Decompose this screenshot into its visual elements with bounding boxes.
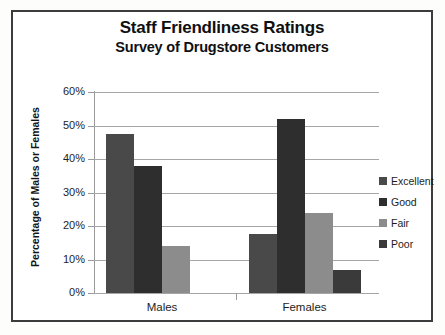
bar-group-females (249, 92, 361, 293)
y-tick-label-10pct: 10% (45, 253, 85, 265)
bar-males-fair[interactable] (162, 246, 190, 293)
bar-males-good[interactable] (134, 166, 162, 293)
legend-swatch-fair-icon (379, 219, 387, 227)
legend-swatch-excellent-icon (379, 177, 387, 185)
legend-label-good: Good (391, 196, 417, 208)
bar-females-fair[interactable] (305, 213, 333, 293)
y-axis-tick-labels: 0%10%20%30%40%50%60% (41, 92, 85, 293)
legend-item-fair[interactable]: Fair (379, 212, 443, 233)
legend-item-poor[interactable]: Poor (379, 233, 443, 254)
legend-item-excellent[interactable]: Excellent (379, 170, 443, 191)
y-tick-mark-0pct (88, 293, 94, 294)
y-tick-label-30pct: 30% (45, 186, 85, 198)
legend-label-poor: Poor (391, 238, 413, 250)
x-axis-category-divider (236, 293, 237, 300)
chart-legend: ExcellentGoodFairPoor (379, 170, 443, 254)
legend-swatch-good-icon (379, 198, 387, 206)
chart-subtitle: Survey of Drugstore Customers (13, 38, 431, 56)
chart-title: Staff Friendliness Ratings (13, 18, 431, 37)
y-tick-mark-20pct (88, 226, 94, 227)
y-tick-label-50pct: 50% (45, 119, 85, 131)
legend-item-good[interactable]: Good (379, 191, 443, 212)
y-tick-mark-40pct (88, 159, 94, 160)
legend-label-fair: Fair (391, 217, 409, 229)
legend-label-excellent: Excellent (391, 175, 434, 187)
chart-figure-frame: Staff Friendliness Ratings Survey of Dru… (11, 10, 433, 322)
bar-males-excellent[interactable] (106, 134, 134, 293)
y-tick-label-20pct: 20% (45, 219, 85, 231)
bar-females-excellent[interactable] (249, 234, 277, 293)
y-tick-label-0pct: 0% (45, 286, 85, 298)
bar-females-poor[interactable] (333, 270, 361, 293)
y-tick-mark-60pct (88, 92, 94, 93)
y-tick-mark-30pct (88, 193, 94, 194)
y-axis-title-label: Percentage of Males or Females (29, 107, 41, 267)
bar-group-males (106, 92, 218, 293)
plot-area (94, 92, 379, 293)
bar-females-good[interactable] (277, 119, 305, 293)
scan-page-surface: Staff Friendliness Ratings Survey of Dru… (0, 0, 445, 335)
x-tick-label-males: Males (102, 301, 222, 313)
y-tick-mark-50pct (88, 126, 94, 127)
legend-swatch-poor-icon (379, 240, 387, 248)
y-tick-label-60pct: 60% (45, 85, 85, 97)
y-tick-mark-10pct (88, 260, 94, 261)
x-tick-label-females: Females (245, 301, 365, 313)
y-tick-label-40pct: 40% (45, 152, 85, 164)
title-block: Staff Friendliness Ratings Survey of Dru… (13, 18, 431, 56)
